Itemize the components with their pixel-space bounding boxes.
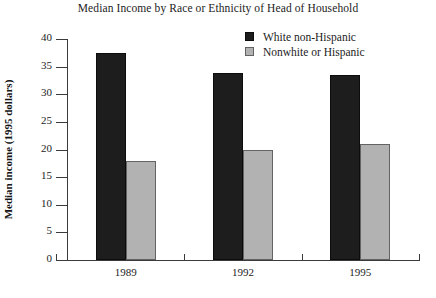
bar-1989-series-0	[96, 53, 126, 260]
y-tick-label: 10	[28, 197, 52, 209]
x-axis-line	[56, 260, 419, 261]
y-tick-label: 0	[28, 252, 52, 264]
x-tick-label: 1989	[86, 266, 166, 278]
x-tick-label: 1992	[203, 266, 283, 278]
x-tick-mark	[56, 254, 57, 261]
y-tick-mark	[56, 260, 67, 261]
legend-item: White non-Hispanic	[245, 29, 365, 44]
plot-area	[67, 39, 419, 260]
y-tick-mark	[56, 232, 67, 233]
bar-1992-series-1	[243, 150, 273, 261]
bar-1995-series-1	[360, 144, 390, 260]
y-axis-label: Median income (1995 dollars)	[2, 39, 16, 260]
y-tick-label: 20	[28, 142, 52, 154]
y-tick-mark	[56, 39, 67, 40]
y-tick-mark	[56, 177, 67, 178]
x-tick-label: 1995	[320, 266, 400, 278]
legend-swatch-icon	[245, 47, 254, 56]
y-tick-mark	[56, 150, 67, 151]
legend-item: Nonwhite or Hispanic	[245, 44, 365, 59]
y-tick-mark	[56, 122, 67, 123]
legend-swatch-icon	[245, 32, 254, 41]
bar-1989-series-1	[126, 161, 156, 260]
chart-title: Median Income by Race or Ethnicity of He…	[0, 2, 436, 14]
bar-chart: Median Income by Race or Ethnicity of He…	[0, 0, 436, 298]
y-tick-mark	[56, 205, 67, 206]
legend-label: Nonwhite or Hispanic	[263, 46, 365, 58]
y-tick-label: 30	[28, 86, 52, 98]
y-tick-mark	[56, 67, 67, 68]
y-tick-label: 15	[28, 169, 52, 181]
chart-legend: White non-Hispanic Nonwhite or Hispanic	[245, 29, 365, 59]
y-tick-label: 5	[28, 224, 52, 236]
y-tick-mark	[56, 94, 67, 95]
x-tick-mark	[419, 254, 420, 261]
y-tick-label: 25	[28, 114, 52, 126]
legend-label: White non-Hispanic	[263, 31, 356, 43]
y-tick-label: 35	[28, 59, 52, 71]
bar-1992-series-0	[213, 73, 243, 260]
y-tick-label: 40	[28, 31, 52, 43]
bar-1995-series-0	[330, 75, 360, 260]
